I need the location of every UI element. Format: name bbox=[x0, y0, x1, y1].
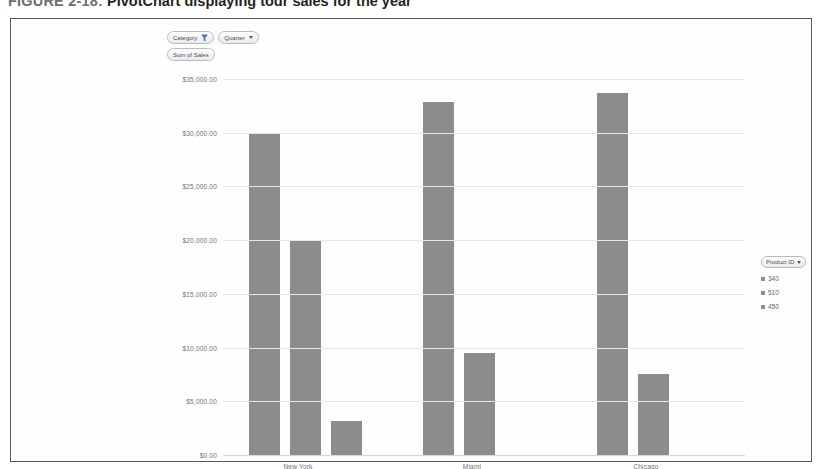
legend-item: 340 bbox=[761, 275, 822, 282]
filter-button-quarter-label: Quarter bbox=[224, 35, 244, 41]
legend-item-label: 340 bbox=[768, 275, 779, 282]
pivot-filter-row-top: Category Quarter bbox=[167, 31, 259, 44]
y-axis-tick-label: $0.00 bbox=[200, 452, 217, 459]
legend-swatch bbox=[761, 277, 765, 281]
chevron-down-icon bbox=[797, 261, 801, 264]
pivot-filter-row-bottom: Sum of Sales bbox=[167, 48, 259, 61]
gridline bbox=[223, 133, 745, 134]
bar-group-bars bbox=[397, 79, 571, 455]
bar[interactable] bbox=[331, 421, 362, 455]
y-axis-tick-label: $35,000.00 bbox=[182, 76, 217, 83]
bar-group: Miami bbox=[397, 79, 571, 455]
legend-field-label: Product ID bbox=[766, 259, 794, 265]
bar[interactable] bbox=[464, 353, 495, 455]
chart-plot-background: Category Quarter Sum of Sales bbox=[11, 19, 811, 461]
bar-group: Chicago bbox=[571, 79, 745, 455]
y-axis-tick-label: $20,000.00 bbox=[182, 237, 217, 244]
y-axis-tick-label: $30,000.00 bbox=[182, 129, 217, 136]
filter-button-category[interactable]: Category bbox=[167, 31, 214, 44]
gridline bbox=[223, 401, 745, 402]
figure-caption-text: PivotChart displaying tour sales for the… bbox=[107, 0, 412, 9]
chart-legend: Product ID 340510450 bbox=[761, 250, 822, 310]
bar[interactable] bbox=[638, 374, 669, 455]
gridline bbox=[223, 455, 745, 456]
value-field-button-label: Sum of Sales bbox=[173, 52, 209, 58]
y-axis-tick-label: $5,000.00 bbox=[186, 398, 217, 405]
legend-item: 510 bbox=[761, 289, 822, 296]
gridline bbox=[223, 79, 745, 80]
value-field-button-sum-of-sales[interactable]: Sum of Sales bbox=[167, 48, 215, 61]
x-axis-tick-label: New York bbox=[223, 463, 397, 469]
legend-items: 340510450 bbox=[761, 275, 822, 310]
bar-group-bars bbox=[223, 79, 397, 455]
x-axis-tick-label: Miami bbox=[397, 463, 571, 469]
gridline bbox=[223, 294, 745, 295]
figure-caption-label: FIGURE 2-18: bbox=[8, 0, 103, 9]
chart-container: Category Quarter Sum of Sales bbox=[10, 18, 812, 462]
legend-item: 450 bbox=[761, 303, 822, 310]
bar-groups: New YorkMiamiChicago bbox=[223, 79, 745, 455]
bar-group: New York bbox=[223, 79, 397, 455]
x-axis-tick-label: Chicago bbox=[571, 463, 745, 469]
gridline bbox=[223, 186, 745, 187]
figure-caption: FIGURE 2-18: PivotChart displaying tour … bbox=[8, 0, 412, 11]
y-axis-tick-label: $10,000.00 bbox=[182, 344, 217, 351]
filter-button-category-label: Category bbox=[173, 35, 197, 41]
funnel-icon bbox=[201, 34, 208, 42]
y-axis-tick-label: $25,000.00 bbox=[182, 183, 217, 190]
y-axis-tick-label: $15,000.00 bbox=[182, 290, 217, 297]
gridline bbox=[223, 348, 745, 349]
chevron-down-icon bbox=[249, 36, 253, 39]
legend-swatch bbox=[761, 305, 765, 309]
pivot-filter-buttons: Category Quarter Sum of Sales bbox=[167, 31, 259, 65]
bar-group-bars bbox=[571, 79, 745, 455]
gridline bbox=[223, 240, 745, 241]
legend-item-label: 450 bbox=[768, 303, 779, 310]
filter-button-quarter[interactable]: Quarter bbox=[218, 31, 258, 44]
legend-field-button-product-id[interactable]: Product ID bbox=[761, 256, 806, 268]
legend-swatch bbox=[761, 291, 765, 295]
plot-area: New YorkMiamiChicago $0.00$5,000.00$10,0… bbox=[223, 79, 745, 455]
legend-item-label: 510 bbox=[768, 289, 779, 296]
